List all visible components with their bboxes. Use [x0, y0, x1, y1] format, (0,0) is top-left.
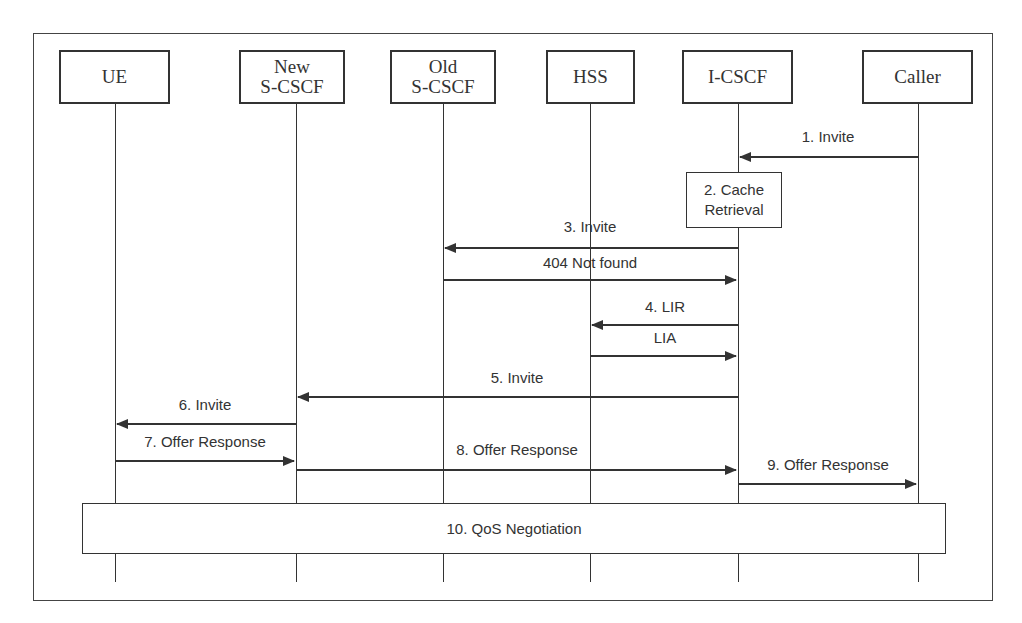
- message-label-4: 4. LIR: [645, 298, 685, 315]
- message-label-8: 8. Offer Response: [456, 441, 577, 458]
- message-label-1: 1. Invite: [802, 128, 855, 145]
- note-qos-negotiation-label: 10. QoS Negotiation: [446, 519, 581, 539]
- message-label-9: 9. Offer Response: [767, 456, 888, 473]
- message-label-404: 404 Not found: [543, 254, 637, 271]
- note-cache-retrieval-label: 2. Cache Retrieval: [704, 180, 764, 220]
- note-qos-negotiation: 10. QoS Negotiation: [82, 503, 946, 554]
- sequence-diagram: UE New S-CSCF Old S-CSCF HSS I-CSCF Call…: [0, 0, 1022, 623]
- message-label-3: 3. Invite: [564, 218, 617, 235]
- message-label-7: 7. Offer Response: [144, 433, 265, 450]
- message-label-lia: LIA: [654, 329, 677, 346]
- message-label-5: 5. Invite: [491, 369, 544, 386]
- message-label-6: 6. Invite: [179, 396, 232, 413]
- note-cache-retrieval: 2. Cache Retrieval: [686, 172, 782, 228]
